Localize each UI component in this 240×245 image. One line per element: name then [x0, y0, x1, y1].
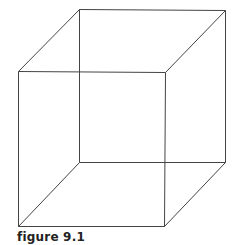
cube-edge [19, 163, 80, 227]
cube-edge [166, 11, 226, 73]
figure-caption: figure 9.1 [17, 230, 85, 244]
cube-edge [19, 72, 166, 73]
cube-edges [19, 10, 226, 227]
cube-edge [80, 10, 226, 11]
cube-edge [19, 10, 80, 72]
cube-edge [165, 163, 226, 227]
necker-cube-diagram [0, 0, 240, 230]
cube-edge [165, 73, 166, 227]
